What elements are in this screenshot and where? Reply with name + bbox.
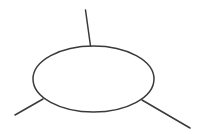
left-spoke-line [15,99,43,115]
top-spoke-line [86,10,91,46]
right-spoke-line [142,100,190,128]
central-ellipse [33,46,154,112]
ellipse-with-three-spokes-diagram [0,0,200,134]
diagram-canvas [0,0,200,134]
